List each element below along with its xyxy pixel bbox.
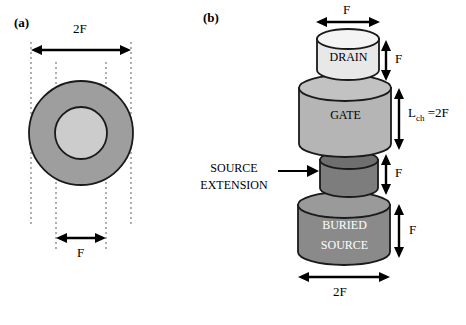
dimension-label-f-drain-width: F (343, 2, 350, 18)
dimension-label-lch-gate-height: Lch =2F (408, 105, 449, 123)
dimension-arrow-f-drain-width (316, 17, 380, 27)
source-extension-pointer-arrow (278, 165, 319, 177)
buried-source-label-line1: BURIED (307, 218, 382, 233)
source-extension-callout-line2: EXTENSION (188, 177, 280, 194)
dimension-arrow-2f-buried-width (298, 272, 390, 282)
dimension-arrow-f-buried-height (394, 204, 404, 258)
dimension-arrow-f-source-extension-height (381, 154, 391, 195)
dimension-arrow-lch-gate-height (394, 88, 404, 150)
drain-label: DRAIN (321, 50, 376, 65)
dimension-label-2f-buried-width: 2F (333, 284, 347, 300)
dimension-label-f-buried-height: F (409, 222, 416, 238)
figure-root: (a) 2F F (b) (0, 0, 466, 325)
source-extension-callout: SOURCE EXTENSION (188, 160, 280, 194)
lch-rest: =2F (424, 105, 448, 120)
gate-label: GATE (318, 108, 373, 123)
dimension-label-f-drain-height: F (395, 51, 402, 67)
source-extension-callout-line1: SOURCE (188, 160, 280, 177)
buried-source-label-line2: SOURCE (307, 238, 382, 253)
dimension-label-f-source-extension-height: F (395, 165, 402, 181)
dimension-arrow-f-drain-height (381, 40, 391, 81)
lch-base: L (408, 105, 416, 120)
source-extension-cylinder (320, 151, 378, 197)
